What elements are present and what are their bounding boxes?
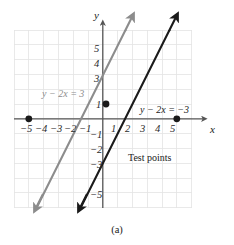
y-tick-label--5: −5 bbox=[90, 190, 102, 201]
line-gray-arrow-top bbox=[125, 15, 133, 31]
figure-caption: (a) bbox=[0, 225, 234, 236]
y-axis-label: y bbox=[94, 10, 99, 21]
x-tick-label--2: −2 bbox=[64, 124, 76, 135]
x-tick-label-2: 2 bbox=[125, 124, 130, 135]
line-gray-y-minus-2x-equals-3 bbox=[35, 14, 134, 212]
test-points-note: Test points bbox=[128, 153, 171, 163]
x-tick-label--4: −4 bbox=[35, 124, 47, 135]
equation-label-gray: y − 2x = 3 bbox=[42, 89, 84, 99]
x-tick-label-1: 1 bbox=[111, 124, 116, 135]
y-tick-label--2: −2 bbox=[90, 145, 102, 156]
equation-label-black: y − 2x = −3 bbox=[140, 105, 189, 115]
test-point-origin bbox=[103, 101, 110, 108]
y-tick-label-1: 1 bbox=[96, 100, 101, 111]
x-axis-label: x bbox=[210, 124, 215, 135]
line-black-arrow-top bbox=[169, 15, 177, 31]
test-point-left bbox=[25, 115, 32, 122]
x-tick-label-4: 4 bbox=[155, 124, 160, 135]
x-tick-label-5: 5 bbox=[170, 124, 175, 135]
y-tick-label--3: −3 bbox=[90, 160, 102, 171]
x-tick-label-3: 3 bbox=[140, 124, 145, 135]
x-tick-label--3: −3 bbox=[50, 124, 62, 135]
graph-figure: y x −5 −4 −3 −2 −1 1 2 3 4 5 5 4 3 1 −1 … bbox=[0, 0, 234, 245]
y-tick-label-3: 3 bbox=[94, 74, 99, 85]
test-point-right bbox=[173, 115, 180, 122]
y-tick-label--1: −1 bbox=[90, 130, 102, 141]
x-tick-label--5: −5 bbox=[20, 124, 32, 135]
y-tick-label-4: 4 bbox=[94, 59, 99, 70]
y-tick-label-5: 5 bbox=[94, 44, 99, 55]
